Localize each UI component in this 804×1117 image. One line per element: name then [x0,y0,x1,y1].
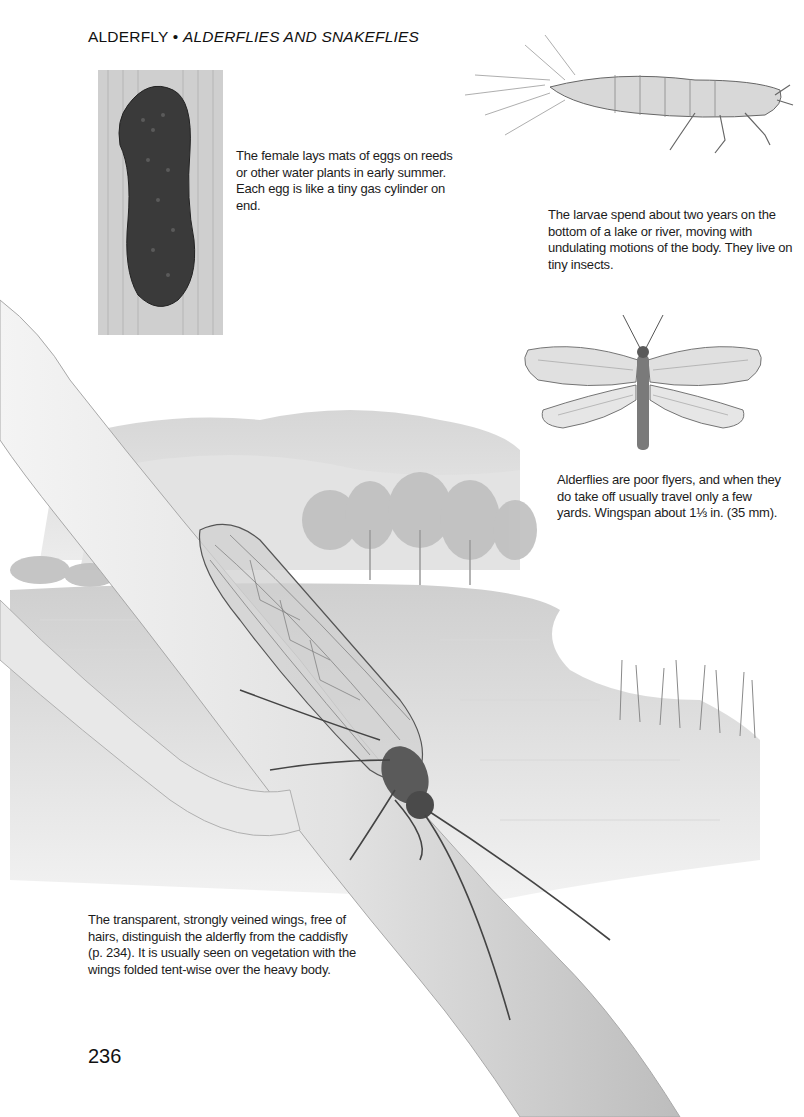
caption-wings: The transparent, strongly veined wings, … [88,912,360,978]
adult-wings-spread-illustration [518,310,768,460]
caption-larvae: The larvae spend about two years on the … [548,207,802,273]
larva-illustration [465,25,795,155]
egg-mat-illustration [98,70,223,335]
caption-eggs: The female lays mats of eggs on reeds or… [236,148,458,214]
page-number: 236 [88,1045,121,1068]
caption-adult-flight: Alderflies are poor flyers, and when the… [557,472,787,522]
